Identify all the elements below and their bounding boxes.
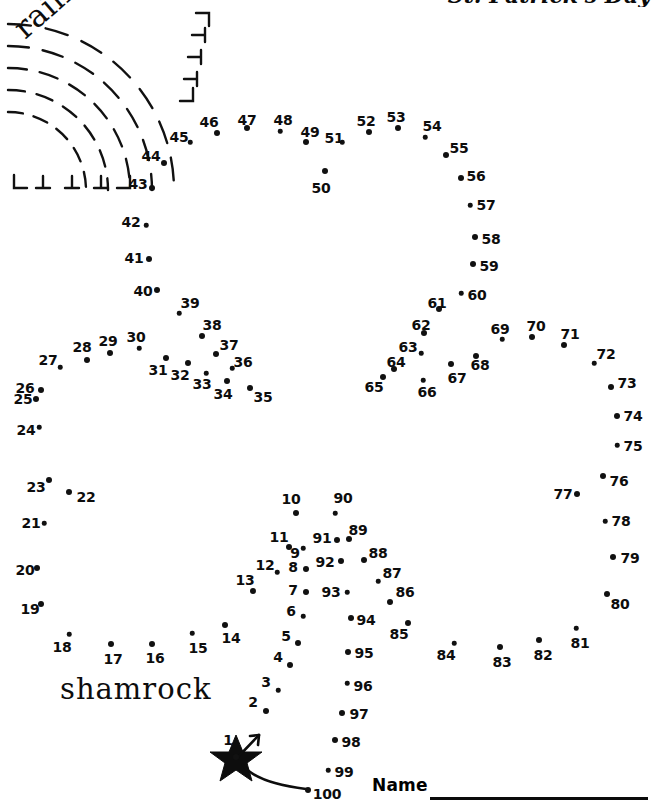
puzzle-dot-23 xyxy=(46,477,52,483)
puzzle-dot-label-37: 37 xyxy=(220,337,239,353)
puzzle-dot-label-78: 78 xyxy=(612,513,631,529)
puzzle-dot-label-8: 8 xyxy=(288,559,297,575)
puzzle-dot-91 xyxy=(334,537,340,543)
puzzle-dot-label-58: 58 xyxy=(482,231,501,247)
puzzle-dot-90 xyxy=(333,511,338,516)
puzzle-dot-79 xyxy=(610,554,616,560)
puzzle-dot-88 xyxy=(361,557,367,563)
puzzle-dot-1 xyxy=(233,754,239,760)
puzzle-dot-label-39: 39 xyxy=(181,295,200,311)
puzzle-dot-label-3: 3 xyxy=(261,674,270,690)
puzzle-dot-label-19: 19 xyxy=(21,601,40,617)
puzzle-dot-label-13: 13 xyxy=(236,572,255,588)
puzzle-dot-label-71: 71 xyxy=(561,326,580,342)
puzzle-dot-label-98: 98 xyxy=(342,734,361,750)
puzzle-dot-26 xyxy=(38,387,44,393)
puzzle-dot-label-93: 93 xyxy=(322,584,341,600)
puzzle-dot-7 xyxy=(303,589,309,595)
puzzle-dot-32 xyxy=(185,360,191,366)
puzzle-dot-3 xyxy=(276,688,281,693)
puzzle-dot-label-69: 69 xyxy=(491,321,510,337)
puzzle-dot-70 xyxy=(529,334,535,340)
puzzle-dot-label-61: 61 xyxy=(428,295,447,311)
puzzle-dot-label-85: 85 xyxy=(390,626,409,642)
puzzle-dot-label-22: 22 xyxy=(77,489,96,505)
puzzle-dot-label-82: 82 xyxy=(534,647,553,663)
name-field-label: Name xyxy=(372,775,428,795)
puzzle-dot-56 xyxy=(458,175,464,181)
puzzle-dot-label-57: 57 xyxy=(477,197,496,213)
puzzle-dot-label-92: 92 xyxy=(316,554,335,570)
puzzle-dot-6 xyxy=(301,614,306,619)
puzzle-dot-label-64: 64 xyxy=(387,354,406,370)
puzzle-dot-84 xyxy=(452,641,457,646)
puzzle-dot-label-91: 91 xyxy=(313,530,332,546)
puzzle-dot-34 xyxy=(224,378,230,384)
puzzle-dot-75 xyxy=(615,443,620,448)
puzzle-dot-25 xyxy=(33,396,39,402)
puzzle-dot-label-60: 60 xyxy=(468,287,487,303)
puzzle-dot-31 xyxy=(163,355,169,361)
puzzle-dot-80 xyxy=(604,591,610,597)
puzzle-dot-35 xyxy=(247,385,253,391)
puzzle-dot-8 xyxy=(303,566,309,572)
worksheet-page: St. Patrick's Day xyxy=(0,0,651,805)
puzzle-dot-label-67: 67 xyxy=(448,370,467,386)
puzzle-dot-label-83: 83 xyxy=(493,654,512,670)
puzzle-dot-label-80: 80 xyxy=(611,596,630,612)
puzzle-dot-94 xyxy=(348,615,354,621)
puzzle-dot-28 xyxy=(84,357,90,363)
puzzle-dot-4 xyxy=(287,662,293,668)
puzzle-dot-label-28: 28 xyxy=(73,339,92,355)
puzzle-dot-label-10: 10 xyxy=(282,491,301,507)
puzzle-dot-label-42: 42 xyxy=(122,214,141,230)
puzzle-dot-label-79: 79 xyxy=(621,550,640,566)
puzzle-dot-label-32: 32 xyxy=(171,367,190,383)
puzzle-dot-label-74: 74 xyxy=(624,408,643,424)
puzzle-dot-12 xyxy=(275,570,280,575)
puzzle-dot-label-11: 11 xyxy=(270,529,289,545)
puzzle-dot-92 xyxy=(338,558,344,564)
puzzle-dot-77 xyxy=(574,491,580,497)
puzzle-dot-label-20: 20 xyxy=(16,562,35,578)
puzzle-dot-label-77: 77 xyxy=(554,486,573,502)
puzzle-dot-label-12: 12 xyxy=(256,557,275,573)
puzzle-dot-label-14: 14 xyxy=(222,630,241,646)
puzzle-dot-label-4: 4 xyxy=(273,649,282,665)
puzzle-dot-2 xyxy=(263,708,269,714)
puzzle-dot-label-21: 21 xyxy=(22,515,41,531)
puzzle-dot-76 xyxy=(600,473,606,479)
puzzle-dot-63 xyxy=(419,351,424,356)
puzzle-dot-93 xyxy=(345,590,350,595)
puzzle-dot-label-1: 1 xyxy=(223,732,232,748)
name-write-in-line[interactable] xyxy=(430,797,648,800)
puzzle-dot-label-73: 73 xyxy=(618,375,637,391)
puzzle-dot-74 xyxy=(614,413,620,419)
puzzle-dot-label-75: 75 xyxy=(624,438,643,454)
puzzle-dot-57 xyxy=(468,203,473,208)
puzzle-dot-label-51: 51 xyxy=(325,130,344,146)
puzzle-dot-label-34: 34 xyxy=(214,386,233,402)
puzzle-dot-label-54: 54 xyxy=(423,118,442,134)
puzzle-dot-label-87: 87 xyxy=(383,565,402,581)
puzzle-dot-14 xyxy=(222,622,228,628)
puzzle-dot-label-38: 38 xyxy=(203,317,222,333)
puzzle-dot-97 xyxy=(339,710,345,716)
puzzle-dot-label-59: 59 xyxy=(480,258,499,274)
puzzle-dot-60 xyxy=(459,291,464,296)
puzzle-dot-label-44: 44 xyxy=(142,148,161,164)
puzzle-dot-95 xyxy=(345,649,351,655)
puzzle-dot-label-53: 53 xyxy=(387,109,406,125)
puzzle-dot-16 xyxy=(149,641,155,647)
puzzle-dot-label-68: 68 xyxy=(471,357,490,373)
puzzle-dot-label-29: 29 xyxy=(99,333,118,349)
puzzle-dot-label-63: 63 xyxy=(399,339,418,355)
puzzle-dot-label-76: 76 xyxy=(610,473,629,489)
puzzle-dot-53 xyxy=(395,125,401,131)
puzzle-dot-label-95: 95 xyxy=(355,645,374,661)
puzzle-dot-5 xyxy=(295,640,301,646)
puzzle-dot-98 xyxy=(332,737,338,743)
puzzle-dot-69 xyxy=(500,337,505,342)
puzzle-dot-54 xyxy=(423,135,428,140)
puzzle-dot-43 xyxy=(149,185,155,191)
